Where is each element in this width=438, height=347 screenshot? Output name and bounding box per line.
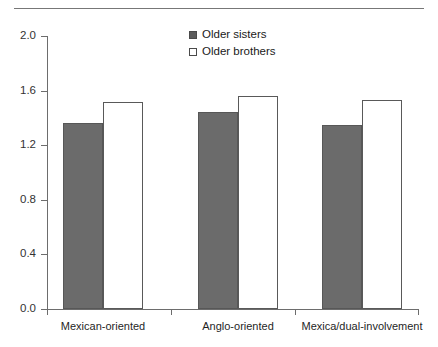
- x-axis-label-anglo-oriented: Anglo-oriented: [202, 320, 274, 333]
- y-tick-label: 0.8: [20, 193, 36, 206]
- bar-anglo-oriented-older-sisters: [198, 112, 238, 309]
- bar-anglo-oriented-older-brothers: [238, 96, 278, 309]
- legend-label: Older sisters: [202, 28, 267, 41]
- y-tick-label: 1.2: [20, 138, 36, 151]
- open-square-icon: [189, 48, 197, 56]
- y-tick-label: 0.4: [20, 247, 36, 260]
- bar-mexica-dual-involvement-older-sisters: [322, 125, 362, 309]
- x-tick: [295, 309, 296, 315]
- legend-label: Older brothers: [202, 45, 276, 58]
- plot-area: [47, 36, 418, 309]
- legend-item-older-brothers: Older brothers: [189, 44, 276, 59]
- legend-item-older-sisters: Older sisters: [189, 27, 276, 42]
- y-tick-label: 0.0: [20, 302, 36, 315]
- bar-mexican-oriented-older-brothers: [103, 102, 143, 310]
- chart-legend: Older sisters Older brothers: [189, 27, 276, 61]
- y-tick-label: 1.6: [20, 84, 36, 97]
- x-axis-label-mexican-oriented: Mexican-oriented: [61, 320, 145, 333]
- bar-mexica-dual-involvement-older-brothers: [362, 100, 402, 309]
- filled-square-icon: [189, 31, 197, 39]
- x-tick: [418, 309, 419, 315]
- x-tick: [47, 309, 48, 315]
- x-axis-label-mexica-dual-involvement: Mexica/dual-involvement: [301, 320, 422, 333]
- y-tick-label: 2.0: [20, 29, 36, 42]
- x-axis-line: [47, 309, 418, 310]
- x-tick: [171, 309, 172, 315]
- bar-chart-figure: 2.0 1.6 1.2 0.8 0.4 0.0 Mexican-oriented…: [0, 0, 438, 347]
- bar-mexican-oriented-older-sisters: [63, 123, 103, 309]
